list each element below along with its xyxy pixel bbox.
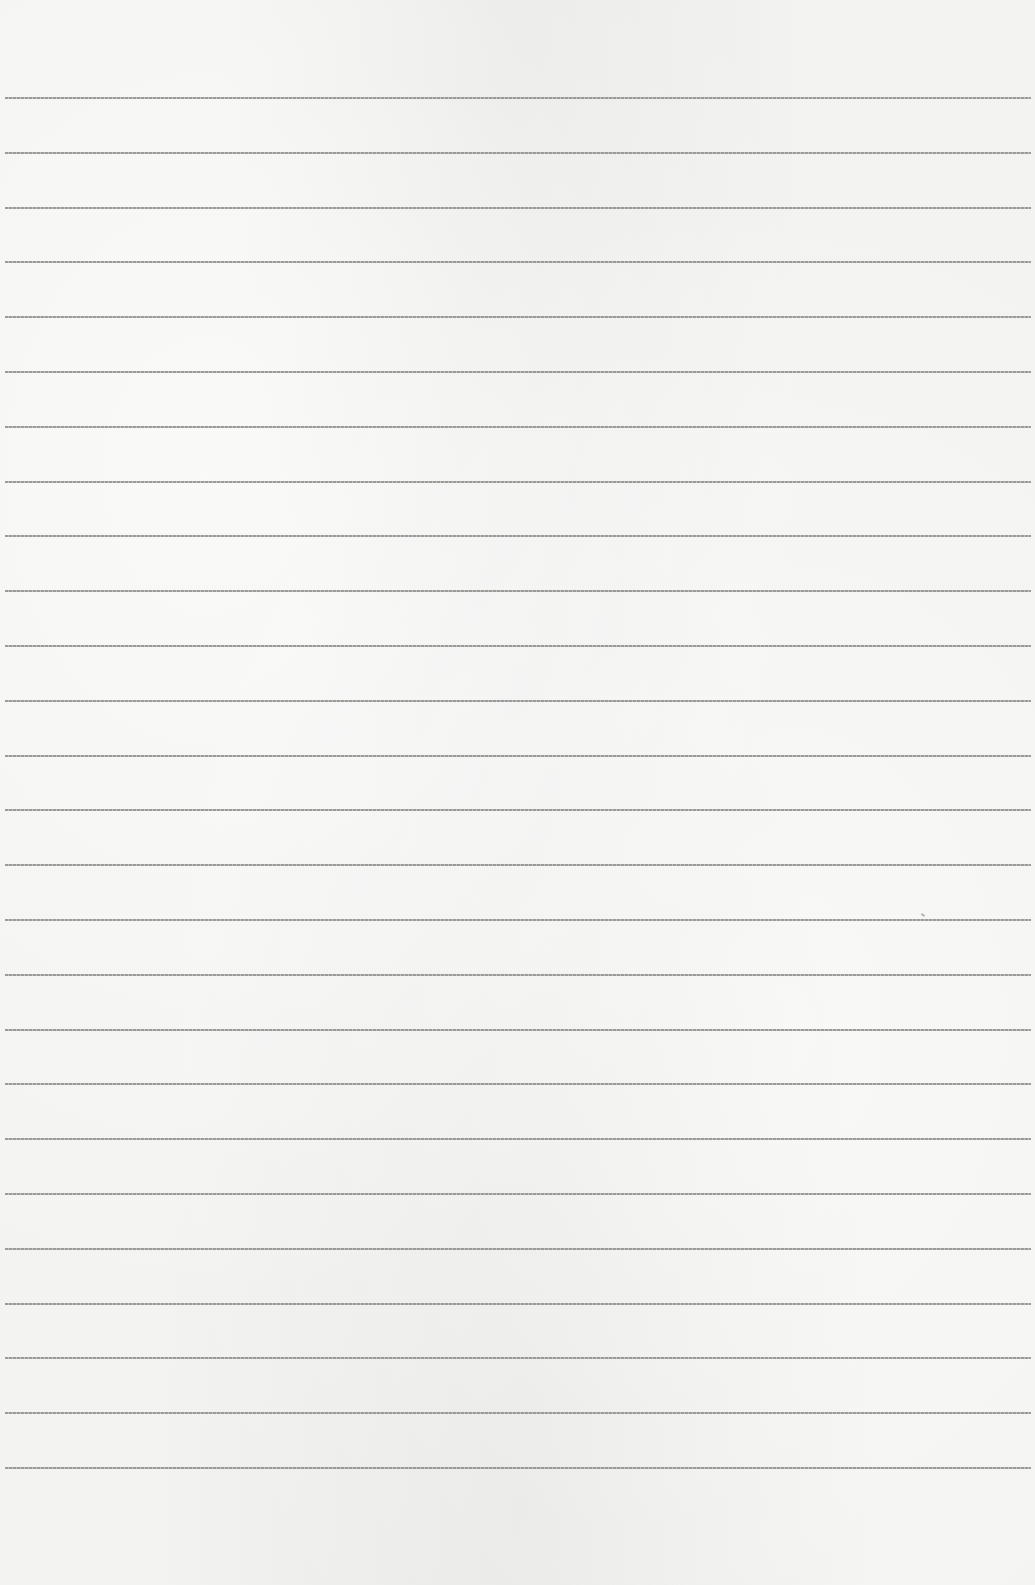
ruled-line — [5, 1193, 1031, 1195]
ruled-line — [5, 974, 1031, 976]
lined-paper-sheet — [0, 0, 1035, 1585]
ruled-line — [5, 590, 1031, 592]
ruled-line — [5, 809, 1031, 811]
ruled-line — [5, 97, 1031, 99]
ruled-line — [5, 1248, 1031, 1250]
paper-speck — [921, 913, 925, 917]
ruled-line — [5, 1412, 1031, 1414]
ruled-line — [5, 1029, 1031, 1031]
ruled-line — [5, 371, 1031, 373]
ruled-line — [5, 261, 1031, 263]
ruled-line — [5, 1467, 1031, 1469]
ruled-line — [5, 864, 1031, 866]
ruled-line — [5, 152, 1031, 154]
ruled-line — [5, 1357, 1031, 1359]
ruled-line — [5, 755, 1031, 757]
ruled-line — [5, 1138, 1031, 1140]
ruled-line — [5, 481, 1031, 483]
ruled-line — [5, 700, 1031, 702]
ruled-line — [5, 919, 1031, 921]
ruled-line — [5, 1303, 1031, 1305]
ruled-line — [5, 1083, 1031, 1085]
ruled-line — [5, 426, 1031, 428]
ruled-line — [5, 316, 1031, 318]
ruled-line — [5, 207, 1031, 209]
ruled-line — [5, 535, 1031, 537]
ruled-line — [5, 645, 1031, 647]
